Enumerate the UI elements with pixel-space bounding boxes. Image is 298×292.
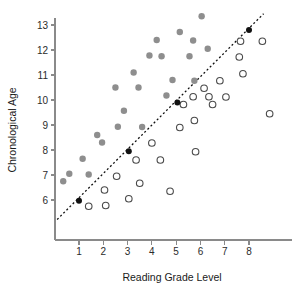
data-point xyxy=(76,198,82,204)
y-tick-label-9: 9 xyxy=(42,120,48,131)
y-tick-label-7: 7 xyxy=(42,170,48,181)
x-axis-title: Reading Grade Level xyxy=(122,271,221,283)
data-point xyxy=(99,139,105,145)
x-tick-label-2: 2 xyxy=(101,246,107,257)
y-axis-title: Chronological Age xyxy=(6,87,18,172)
data-point xyxy=(112,84,118,90)
data-point xyxy=(169,77,175,83)
data-point xyxy=(121,108,127,114)
identity-reference-line xyxy=(57,14,263,220)
scatter-plot-figure: 67891011121312345678 Reading Grade Level… xyxy=(0,0,298,292)
data-point xyxy=(177,29,183,35)
identity-reference-line xyxy=(57,14,263,220)
data-point xyxy=(79,156,85,162)
x-tick-label-3: 3 xyxy=(125,246,131,257)
x-tick-label-6: 6 xyxy=(198,246,204,257)
data-point xyxy=(115,124,121,130)
data-point xyxy=(126,148,132,154)
data-point xyxy=(102,202,109,209)
data-point xyxy=(113,173,120,180)
data-point xyxy=(237,38,244,45)
data-point xyxy=(176,124,183,131)
data-point xyxy=(125,195,132,202)
y-tick-label-10: 10 xyxy=(37,95,49,106)
data-point xyxy=(66,171,72,177)
data-point xyxy=(201,85,208,92)
data-point xyxy=(191,78,197,84)
tick-labels-group: 67891011121312345678 xyxy=(37,20,252,257)
data-point xyxy=(209,101,216,108)
y-tick-label-11: 11 xyxy=(38,70,49,81)
data-point xyxy=(158,53,164,59)
data-point xyxy=(163,92,169,98)
x-tick-label-4: 4 xyxy=(149,246,155,257)
plot-canvas: 67891011121312345678 Reading Grade Level… xyxy=(0,0,298,292)
data-point xyxy=(266,110,273,117)
data-point xyxy=(217,77,224,84)
data-point xyxy=(86,171,92,177)
data-point xyxy=(206,93,213,100)
data-point xyxy=(223,94,230,101)
data-point xyxy=(259,38,266,45)
x-tick-label-7: 7 xyxy=(222,246,228,257)
x-tick-label-5: 5 xyxy=(173,246,179,257)
data-point xyxy=(167,188,174,195)
series-1 xyxy=(85,38,273,210)
data-point xyxy=(154,37,160,43)
x-tick-label-1: 1 xyxy=(76,246,82,257)
data-point xyxy=(149,140,156,147)
data-point xyxy=(246,27,252,33)
data-point xyxy=(130,69,136,75)
y-tick-label-12: 12 xyxy=(37,45,49,56)
data-point xyxy=(240,70,247,77)
x-tick-label-8: 8 xyxy=(246,246,252,257)
data-points-group xyxy=(60,13,273,210)
data-point xyxy=(174,100,180,106)
data-point xyxy=(135,84,141,90)
data-point xyxy=(146,52,152,58)
data-point xyxy=(198,13,204,19)
data-point xyxy=(191,117,198,124)
data-point xyxy=(190,37,196,43)
data-point xyxy=(186,53,192,59)
data-point xyxy=(101,187,108,194)
data-point xyxy=(133,157,140,164)
data-point xyxy=(236,54,243,61)
data-point xyxy=(94,132,100,138)
data-point xyxy=(190,93,197,100)
y-tick-label-8: 8 xyxy=(42,145,48,156)
data-point xyxy=(205,46,211,52)
data-point xyxy=(139,124,145,130)
y-tick-label-13: 13 xyxy=(37,20,49,31)
data-point xyxy=(192,148,199,155)
data-point xyxy=(85,203,92,210)
data-point xyxy=(180,101,187,108)
y-tick-label-6: 6 xyxy=(42,195,48,206)
series-2 xyxy=(76,27,252,204)
data-point xyxy=(60,178,66,184)
data-point xyxy=(157,157,164,164)
data-point xyxy=(136,180,143,187)
